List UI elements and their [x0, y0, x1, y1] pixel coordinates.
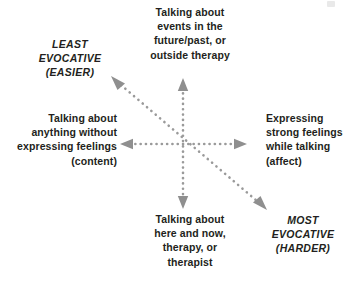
label-least-evocative-line-3: (EASIER) — [20, 65, 120, 79]
label-right-line-2: strong feelings — [266, 125, 351, 139]
label-most-evocative: MOST EVOCATIVE (HARDER) — [255, 213, 351, 256]
evocativeness-diagram: Talking about events in the future/past,… — [0, 0, 351, 285]
label-bottom-line-2: here and now, — [120, 226, 260, 240]
label-least-evocative-line-2: EVOCATIVE — [20, 51, 120, 65]
label-bottom: Talking about here and now, therapy, or … — [120, 212, 260, 269]
label-most-evocative-line-2: EVOCATIVE — [255, 227, 351, 241]
label-left: Talking about anything without expressin… — [2, 111, 117, 168]
arrow-lower-right-icon — [253, 196, 267, 210]
label-right-line-4: (affect) — [266, 154, 351, 168]
arrow-down-icon — [178, 196, 188, 209]
label-left-line-3: expressing feelings — [2, 139, 117, 153]
label-most-evocative-line-3: (HARDER) — [255, 241, 351, 255]
label-top-line-3: future/past, or — [120, 33, 260, 47]
label-left-line-1: Talking about — [2, 111, 117, 125]
arrow-up-icon — [178, 78, 188, 91]
label-bottom-line-4: therapist — [120, 255, 260, 269]
label-least-evocative: LEAST EVOCATIVE (EASIER) — [20, 37, 120, 80]
label-bottom-line-1: Talking about — [120, 212, 260, 226]
label-left-line-4: (content) — [2, 154, 117, 168]
arrow-right-icon — [234, 139, 247, 149]
label-least-evocative-line-1: LEAST — [20, 37, 120, 51]
label-left-line-2: anything without — [2, 125, 117, 139]
label-bottom-line-3: therapy, or — [120, 240, 260, 254]
label-right: Expressing strong feelings while talking… — [266, 111, 351, 168]
label-top-line-2: events in the — [120, 19, 260, 33]
label-top-line-1: Talking about — [120, 5, 260, 19]
arrow-left-icon — [120, 139, 133, 149]
label-most-evocative-line-1: MOST — [255, 213, 351, 227]
label-right-line-3: while talking — [266, 139, 351, 153]
label-right-line-1: Expressing — [266, 111, 351, 125]
label-top: Talking about events in the future/past,… — [120, 5, 260, 62]
label-top-line-4: outside therapy — [120, 48, 260, 62]
